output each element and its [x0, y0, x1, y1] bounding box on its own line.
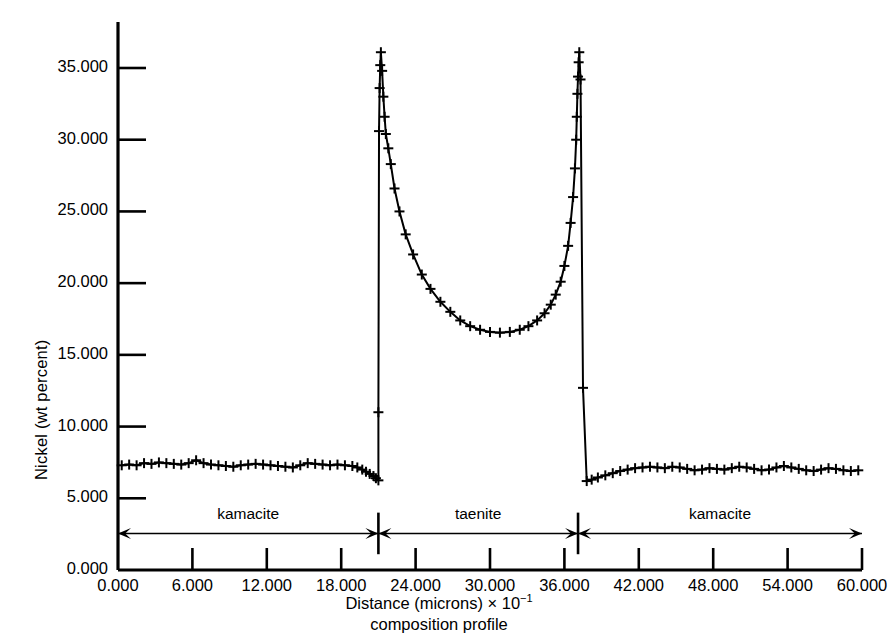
x-axis-label-line1: Distance (microns) × 10−1 — [0, 588, 878, 614]
data-point-marker — [386, 159, 396, 169]
region-taenite: taenite — [398, 505, 558, 523]
data-point-marker — [727, 463, 737, 473]
data-point-marker — [794, 464, 804, 474]
data-point-marker — [352, 462, 362, 472]
data-point-marker — [809, 466, 819, 476]
data-point-marker — [615, 466, 625, 476]
data-point-marker — [376, 47, 386, 57]
data-point-marker — [380, 112, 390, 122]
data-point-marker — [568, 192, 578, 202]
y-axis-label-container: Nickel (wt percent) — [2, 180, 42, 480]
data-point-marker — [375, 60, 385, 70]
region-kamacite-left: kamacite — [168, 505, 328, 523]
data-point-marker — [571, 135, 581, 145]
data-point-marker — [394, 206, 404, 216]
data-point-marker — [593, 472, 603, 482]
data-point-marker — [749, 464, 759, 474]
data-point-marker — [600, 470, 610, 480]
data-point-marker — [675, 462, 685, 472]
data-point-marker — [465, 321, 475, 331]
data-point-marker — [377, 66, 387, 76]
data-point-marker — [719, 465, 729, 475]
data-point-marker — [373, 407, 383, 417]
data-point-marker — [146, 459, 156, 469]
y-tick-label: 30.000 — [0, 129, 108, 148]
data-point-marker — [551, 290, 561, 300]
y-tick-label: 10.000 — [0, 416, 108, 435]
data-point-marker — [831, 464, 841, 474]
data-point-marker — [742, 462, 752, 472]
axis-ticks — [118, 68, 862, 570]
y-tick-label: 15.000 — [0, 344, 108, 363]
x-axis-label-text: Distance (microns) × 10 — [345, 594, 520, 612]
y-tick-label: 5.000 — [0, 487, 108, 506]
data-point-marker — [485, 327, 495, 337]
data-point-marker — [505, 327, 515, 337]
x-axis-label-exponent: −1 — [520, 592, 533, 604]
data-point-marker — [390, 183, 400, 193]
data-point-marker — [566, 218, 576, 228]
x-axis-label-container: Distance (microns) × 10−1 composition pr… — [0, 588, 878, 635]
data-point-marker — [574, 57, 584, 67]
x-axis-label-line2: composition profile — [0, 614, 878, 635]
data-point-marker — [132, 460, 142, 470]
data-point-marker — [475, 325, 485, 335]
data-point-marker — [816, 465, 826, 475]
region-kamacite-right: kamacite — [640, 505, 800, 523]
data-point-marker — [786, 462, 796, 472]
data-point-marker — [295, 460, 305, 470]
data-point-marker — [764, 465, 774, 475]
data-point-marker — [401, 229, 411, 239]
data-point-marker — [578, 383, 588, 393]
data-point-marker — [697, 465, 707, 475]
data-point-marker — [408, 249, 418, 259]
data-point-marker — [228, 462, 238, 472]
data-point-marker — [417, 270, 427, 280]
data-point-marker — [495, 328, 505, 338]
data-point-marker — [660, 463, 670, 473]
data-point-marker — [563, 241, 573, 251]
data-point-marker — [574, 47, 584, 57]
data-point-marker — [176, 460, 186, 470]
data-point-marker — [556, 277, 566, 287]
data-curve — [122, 52, 859, 481]
y-tick-label: 20.000 — [0, 272, 108, 291]
data-point-marker — [582, 476, 592, 486]
data-point-marker — [623, 465, 633, 475]
data-markers — [117, 47, 864, 486]
data-point-marker — [570, 163, 580, 173]
y-tick-label: 25.000 — [0, 200, 108, 219]
data-point-marker — [853, 465, 863, 475]
data-point-marker — [682, 464, 692, 474]
axes — [118, 22, 862, 570]
y-tick-label: 35.000 — [0, 57, 108, 76]
data-point-marker — [383, 143, 393, 153]
data-point-marker — [771, 462, 781, 472]
data-point-marker — [559, 261, 569, 271]
data-point-marker — [587, 475, 597, 485]
data-point-marker — [347, 461, 357, 471]
data-point-marker — [608, 468, 618, 478]
data-point-marker — [779, 461, 789, 471]
data-point-marker — [515, 325, 525, 335]
data-point-marker — [288, 462, 298, 472]
